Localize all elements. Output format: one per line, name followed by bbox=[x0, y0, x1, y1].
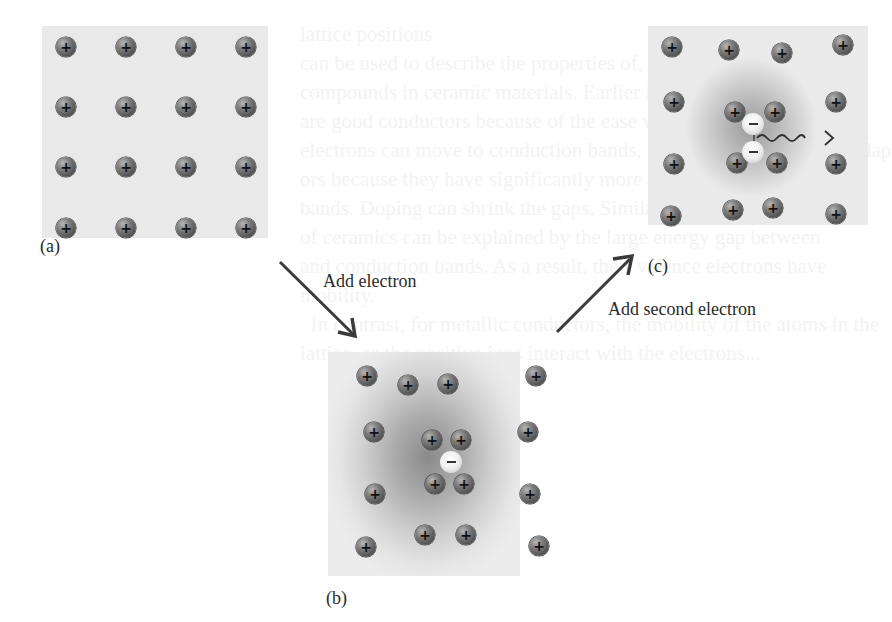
add-second-electron-arrow-icon bbox=[557, 256, 632, 332]
add-electron-label: Add electron bbox=[323, 271, 416, 292]
add-second-electron-label: Add second electron bbox=[608, 299, 756, 320]
transition-arrows bbox=[0, 0, 892, 622]
phonon-wavy-arrow-icon bbox=[754, 131, 833, 145]
